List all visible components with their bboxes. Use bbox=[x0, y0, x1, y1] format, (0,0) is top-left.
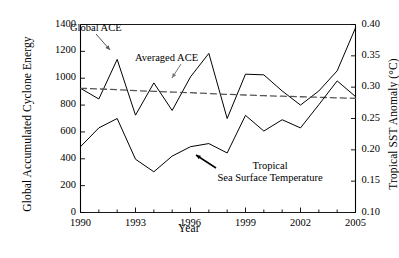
y-tick-label-left: 800 bbox=[28, 98, 76, 109]
annotation-averaged-ace: Averaged ACE bbox=[135, 52, 198, 64]
axes-group bbox=[81, 25, 356, 213]
y-axis-right-label: Tropical SST Anomaly (°C) bbox=[387, 19, 399, 229]
annotation-arrow-averaged-ace-head bbox=[172, 73, 176, 78]
annotation-tropical-sst: Tropical Sea Surface Temperature bbox=[195, 160, 345, 184]
x-tick-label: 2005 bbox=[331, 217, 381, 228]
series-group bbox=[81, 28, 356, 172]
y-tick-label-right: 0.35 bbox=[362, 49, 380, 60]
series-line-averaged-ace bbox=[81, 88, 356, 98]
y-tick-label-left: 0 bbox=[28, 206, 76, 217]
series-line-global-ace bbox=[81, 28, 356, 119]
y-tick-label-left: 200 bbox=[28, 179, 76, 190]
y-tick-label-left: 400 bbox=[28, 152, 76, 163]
y-tick-label-right: 0.10 bbox=[362, 206, 380, 217]
y-tick-label-right: 0.30 bbox=[362, 80, 380, 91]
x-tick-label: 1999 bbox=[221, 217, 271, 228]
y-tick-label-left: 1400 bbox=[28, 18, 76, 29]
y-tick-label-left: 1000 bbox=[28, 71, 76, 82]
y-tick-label-right: 0.15 bbox=[362, 174, 380, 185]
x-tick-label: 1990 bbox=[56, 217, 106, 228]
annotation-tropical-sst-line1: Tropical bbox=[195, 160, 345, 172]
y-tick-label-right: 0.40 bbox=[362, 18, 380, 29]
annotation-global-ace: Global ACE bbox=[70, 22, 122, 34]
x-tick-label: 2002 bbox=[276, 217, 326, 228]
y-tick-label-left: 1200 bbox=[28, 44, 76, 55]
y-tick-label-right: 0.20 bbox=[362, 143, 380, 154]
x-tick-label: 1996 bbox=[166, 217, 216, 228]
annotation-tropical-sst-line2: Sea Surface Temperature bbox=[195, 172, 345, 184]
y-tick-label-right: 0.25 bbox=[362, 112, 380, 123]
x-tick-label: 1993 bbox=[111, 217, 161, 228]
ticks-group bbox=[81, 25, 356, 213]
y-tick-label-left: 600 bbox=[28, 125, 76, 136]
